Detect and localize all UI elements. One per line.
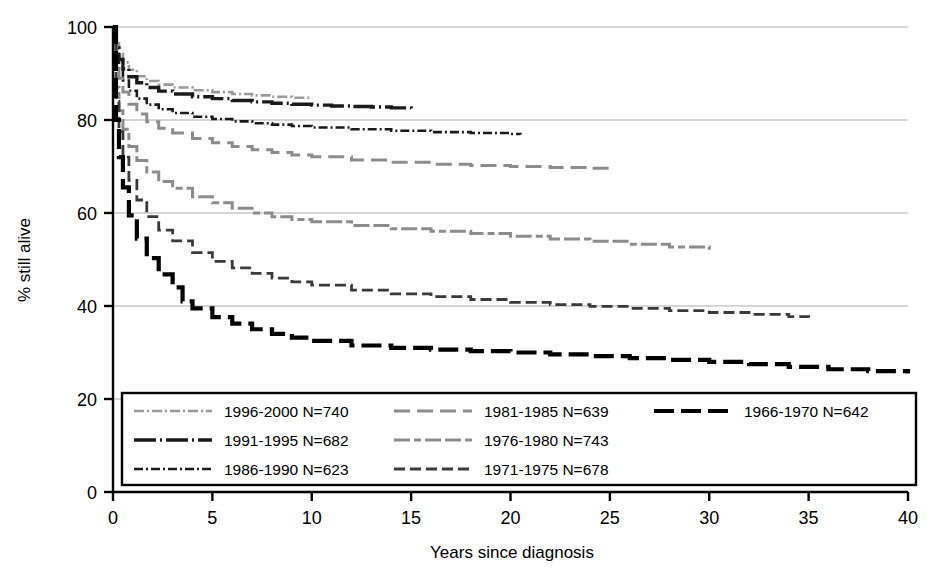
legend-item-label: 1991-1995 N=682 <box>224 432 349 449</box>
chart-background <box>0 0 937 573</box>
x-tick-label: 30 <box>699 508 719 528</box>
y-tick-label: 100 <box>67 18 97 38</box>
y-tick-label: 60 <box>77 204 97 224</box>
legend-item-label: 1966-1970 N=642 <box>744 403 869 420</box>
legend-item-label: 1981-1985 N=639 <box>484 403 609 420</box>
legend-item-label: 1971-1975 N=678 <box>484 461 609 478</box>
x-tick-label: 35 <box>799 508 819 528</box>
kaplan-meier-chart: 020406080100 0510152025303540 % still al… <box>0 0 937 573</box>
x-tick-label: 10 <box>302 508 322 528</box>
x-tick-label: 20 <box>500 508 520 528</box>
x-tick-label: 0 <box>108 508 118 528</box>
y-axis-title: % still alive <box>15 218 34 302</box>
x-axis-title: Years since diagnosis <box>430 543 594 562</box>
survival-curve-figure: 020406080100 0510152025303540 % still al… <box>0 0 937 573</box>
legend: 1996-2000 N=7401991-1995 N=6821986-1990 … <box>122 393 916 485</box>
x-tick-label: 5 <box>207 508 217 528</box>
x-tick-label: 15 <box>401 508 421 528</box>
y-tick-label: 0 <box>87 483 97 503</box>
legend-item-label: 1976-1980 N=743 <box>484 432 609 449</box>
y-tick-label: 40 <box>77 297 97 317</box>
x-tick-label: 25 <box>600 508 620 528</box>
legend-item-label: 1986-1990 N=623 <box>224 461 349 478</box>
x-tick-label: 40 <box>898 508 918 528</box>
y-tick-label: 20 <box>77 390 97 410</box>
y-tick-label: 80 <box>77 111 97 131</box>
legend-item-label: 1996-2000 N=740 <box>224 403 349 420</box>
